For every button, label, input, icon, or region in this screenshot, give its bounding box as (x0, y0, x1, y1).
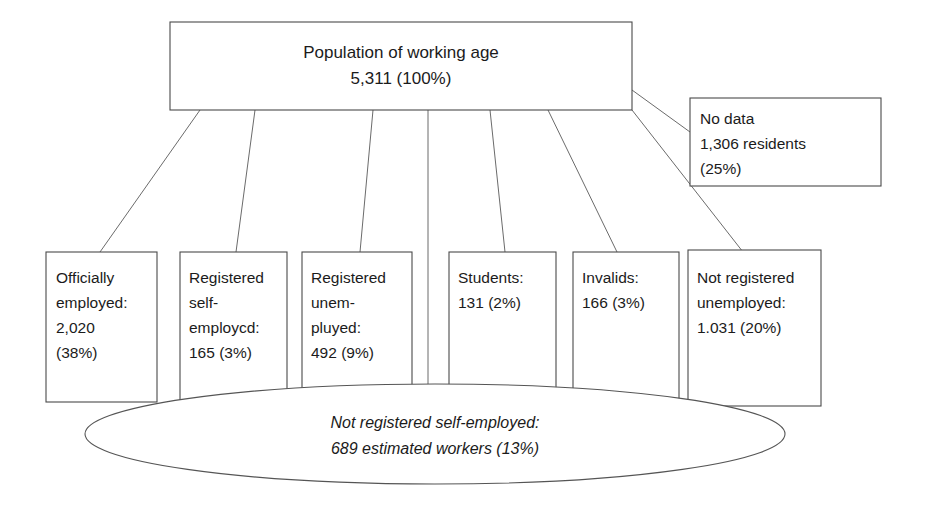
connector-to-registered-self-employed (236, 110, 255, 252)
officially-employed-line-4: (38%) (56, 344, 97, 361)
invalids-line-2: 166 (3%) (582, 294, 645, 311)
registered-self-employed-line-1: Registered (189, 269, 264, 286)
node-not-registered-self-employed[interactable]: Not registered self-employed: 689 estima… (85, 384, 785, 484)
officially-employed-line-3: 2,020 (56, 319, 95, 336)
flowchart-diagram: Population of working age 5,311 (100%) N… (0, 0, 928, 511)
no-data-label: No data (700, 110, 755, 127)
node-not-registered-unemployed[interactable]: Not registered unemployed: 1.031 (20%) (688, 250, 821, 406)
no-data-value: 1,306 residents (700, 135, 806, 152)
not-registered-unemployed-line-1: Not registered (697, 269, 794, 286)
self-employed-label: Not registered self-employed: (331, 414, 540, 431)
node-invalids[interactable]: Invalids: 166 (3%) (573, 252, 679, 402)
population-value: 5,311 (100%) (351, 69, 452, 88)
officially-employed-line-2: employed: (56, 294, 128, 311)
node-officially-employed[interactable]: Officially employed: 2,020 (38%) (46, 252, 157, 402)
connector-to-invalids (548, 110, 617, 252)
registered-unemployed-line-4: 492 (9%) (311, 344, 374, 361)
node-registered-unemployed[interactable]: Registered unem- pluyed: 492 (9%) (302, 252, 412, 402)
node-no-data[interactable]: No data 1,306 residents (25%) (690, 98, 881, 186)
population-box (170, 22, 632, 110)
self-employed-ellipse (85, 384, 785, 484)
connector-to-officially-employed (100, 110, 200, 252)
registered-unemployed-line-2: unem- (311, 294, 355, 311)
not-registered-unemployed-line-3: 1.031 (20%) (697, 319, 781, 336)
students-line-2: 131 (2%) (458, 294, 521, 311)
node-students[interactable]: Students: 131 (2%) (449, 252, 556, 402)
registered-unemployed-line-1: Registered (311, 269, 386, 286)
population-title: Population of working age (303, 43, 499, 62)
students-line-1: Students: (458, 269, 524, 286)
connector-to-registered-unemployed (360, 110, 373, 252)
connector-to-no-data (632, 90, 690, 132)
self-employed-value: 689 estimated workers (13%) (331, 440, 539, 457)
diagram-canvas: Population of working age 5,311 (100%) N… (0, 0, 928, 511)
registered-self-employed-line-3: employcd: (189, 319, 260, 336)
no-data-percent: (25%) (700, 160, 741, 177)
node-registered-self-employed[interactable]: Registered self- employcd: 165 (3%) (180, 252, 287, 402)
invalids-line-1: Invalids: (582, 269, 639, 286)
not-registered-unemployed-line-2: unemployed: (697, 294, 786, 311)
node-population-of-working-age[interactable]: Population of working age 5,311 (100%) (170, 22, 632, 110)
officially-employed-line-1: Officially (56, 269, 115, 286)
registered-unemployed-line-3: pluyed: (311, 319, 361, 336)
registered-self-employed-line-2: self- (189, 294, 218, 311)
registered-self-employed-line-4: 165 (3%) (189, 344, 252, 361)
connector-to-students (490, 110, 505, 252)
